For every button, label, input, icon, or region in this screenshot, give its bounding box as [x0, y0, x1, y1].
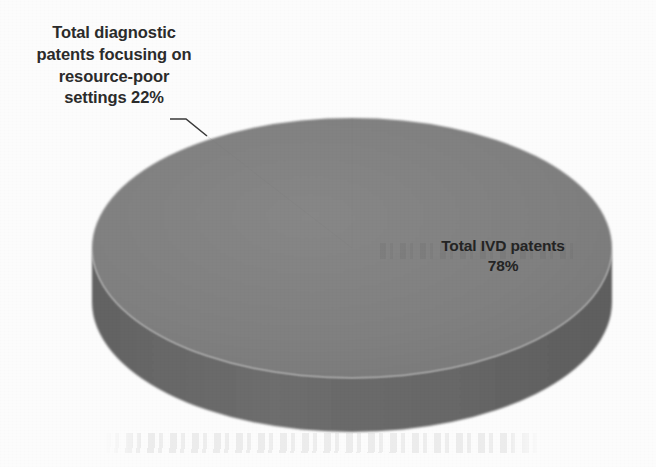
callout-leader-line [170, 119, 207, 136]
slice-label-diagnostic-22: Total diagnostic patents focusing on res… [14, 22, 214, 109]
pie-chart-figure: Total diagnostic patents focusing on res… [0, 0, 656, 467]
slice-label-ivd-78: Total IVD patents 78% [398, 236, 608, 277]
